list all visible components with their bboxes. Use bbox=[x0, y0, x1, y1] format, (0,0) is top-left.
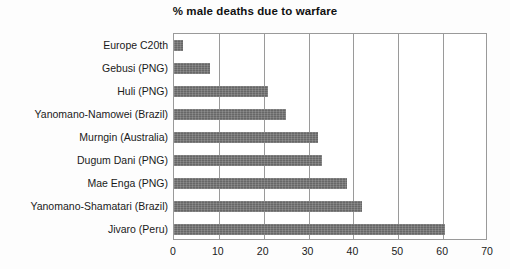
bar-chart: % male deaths due to warfare Europe C20t… bbox=[0, 0, 510, 269]
x-tick-label-30: 30 bbox=[288, 245, 328, 257]
bar-band bbox=[174, 126, 486, 149]
x-tick-label-50: 50 bbox=[377, 245, 417, 257]
x-tick-label-60: 60 bbox=[422, 245, 462, 257]
bar[interactable] bbox=[174, 132, 318, 143]
category-label: Gebusi (PNG) bbox=[0, 62, 168, 74]
x-tick-label-0: 0 bbox=[153, 245, 193, 257]
bar[interactable] bbox=[174, 63, 210, 74]
chart-title: % male deaths due to warfare bbox=[0, 5, 510, 17]
bar-band bbox=[174, 149, 486, 172]
bar-band bbox=[174, 218, 486, 241]
x-tick-label-40: 40 bbox=[332, 245, 372, 257]
bar[interactable] bbox=[174, 109, 286, 120]
category-label: Murngin (Australia) bbox=[0, 131, 168, 143]
bar[interactable] bbox=[174, 224, 445, 235]
bar[interactable] bbox=[174, 178, 347, 189]
bar-band bbox=[174, 57, 486, 80]
category-label: Dugum Dani (PNG) bbox=[0, 154, 168, 166]
x-tick-label-70: 70 bbox=[467, 245, 507, 257]
bar-band bbox=[174, 195, 486, 218]
category-label: Jivaro (Peru) bbox=[0, 223, 168, 235]
bar-band bbox=[174, 34, 486, 57]
category-label: Europe C20th bbox=[0, 39, 168, 51]
x-tick-label-20: 20 bbox=[243, 245, 283, 257]
category-label: Yanomano-Shamatari (Brazil) bbox=[0, 200, 168, 212]
category-label: Huli (PNG) bbox=[0, 85, 168, 97]
category-label: Mae Enga (PNG) bbox=[0, 177, 168, 189]
category-label: Yanomano-Namowei (Brazil) bbox=[0, 108, 168, 120]
bar-band bbox=[174, 80, 486, 103]
bar[interactable] bbox=[174, 40, 183, 51]
bar-band bbox=[174, 103, 486, 126]
bar[interactable] bbox=[174, 155, 322, 166]
x-tick-label-10: 10 bbox=[198, 245, 238, 257]
plot-area bbox=[173, 33, 487, 240]
bar-band bbox=[174, 172, 486, 195]
bar[interactable] bbox=[174, 201, 362, 212]
bar[interactable] bbox=[174, 86, 268, 97]
